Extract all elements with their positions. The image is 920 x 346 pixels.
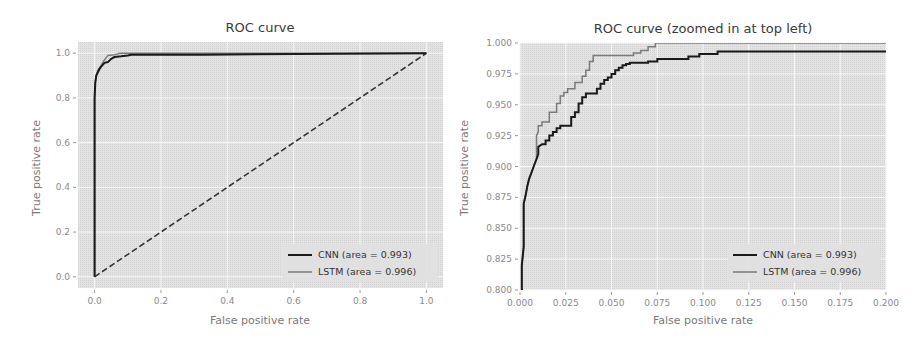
x-tick-label: 0.175 — [827, 298, 853, 308]
chart-title: ROC curve (zoomed in at top left) — [594, 21, 813, 36]
y-axis-label: True positive rate — [30, 120, 43, 217]
x-tick-label: 0.025 — [553, 298, 579, 308]
x-tick-label: 0.0 — [87, 296, 102, 306]
y-tick-label: 0.850 — [486, 223, 512, 233]
legend: CNN (area = 0.993) LSTM (area = 0.996) — [282, 244, 438, 282]
y-tick-label: 0.4 — [56, 182, 71, 192]
x-tick-label: 0.8 — [353, 296, 368, 306]
y-tick-label: 0.0 — [56, 272, 71, 282]
x-ticks: 0.00.20.40.60.81.0 — [87, 290, 433, 306]
y-tick-label: 0.825 — [486, 254, 512, 264]
legend-label-lstm: LSTM (area = 0.996) — [318, 266, 416, 277]
legend-label-cnn: CNN (area = 0.993) — [763, 249, 857, 260]
legend-label-lstm: LSTM (area = 0.996) — [763, 266, 861, 277]
y-tick-label: 1.0 — [56, 48, 71, 58]
x-axis-label: False positive rate — [210, 314, 310, 327]
x-tick-label: 0.150 — [782, 298, 808, 308]
y-tick-label: 0.8 — [56, 93, 71, 103]
x-tick-label: 0.000 — [507, 298, 533, 308]
x-ticks: 0.0000.0250.0500.0750.1000.1250.1500.175… — [507, 292, 899, 308]
y-tick-label: 0.900 — [486, 162, 512, 172]
y-tick-label: 0.950 — [486, 100, 512, 110]
legend: CNN (area = 0.993) LSTM (area = 0.996) — [728, 244, 880, 282]
y-tick-label: 0.800 — [486, 285, 512, 295]
figure: 0.00.20.40.60.81.0 0.00.20.40.60.81.0 RO… — [0, 0, 920, 346]
y-tick-label: 0.875 — [486, 192, 512, 202]
x-tick-label: 0.075 — [644, 298, 670, 308]
x-tick-label: 0.100 — [690, 298, 716, 308]
roc-curve-plot: 0.00.20.40.60.81.0 0.00.20.40.60.81.0 RO… — [30, 20, 443, 327]
y-tick-label: 1.000 — [486, 38, 512, 48]
x-axis-label: False positive rate — [653, 314, 753, 327]
x-tick-label: 1.0 — [419, 296, 434, 306]
y-tick-label: 0.6 — [56, 138, 71, 148]
y-axis-label: True positive rate — [458, 120, 471, 217]
roc-curve-zoomed-plot: 0.0000.0250.0500.0750.1000.1250.1500.175… — [458, 21, 899, 327]
x-tick-label: 0.4 — [220, 296, 235, 306]
y-tick-label: 0.2 — [56, 227, 70, 237]
legend-label-cnn: CNN (area = 0.993) — [318, 249, 412, 260]
x-tick-label: 0.6 — [287, 296, 302, 306]
x-tick-label: 0.200 — [873, 298, 899, 308]
x-tick-label: 0.2 — [154, 296, 168, 306]
y-tick-label: 0.975 — [486, 69, 512, 79]
x-tick-label: 0.125 — [736, 298, 762, 308]
y-ticks: 0.00.20.40.60.81.0 — [56, 48, 76, 282]
chart-title: ROC curve — [226, 20, 295, 35]
y-ticks: 0.8000.8250.8500.8750.9000.9250.9500.975… — [486, 38, 518, 295]
x-tick-label: 0.050 — [599, 298, 625, 308]
y-tick-label: 0.925 — [486, 131, 512, 141]
